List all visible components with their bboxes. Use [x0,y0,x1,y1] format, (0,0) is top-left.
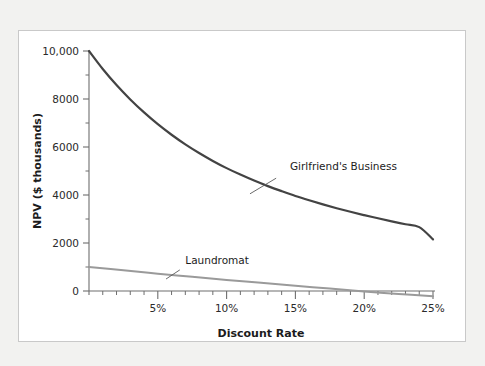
x-axis-tick-label: 20% [353,302,376,314]
y-axis-tick-label: 8000 [52,93,79,105]
y-axis-tick-label: 10,000 [42,45,79,57]
y-axis-title: NPV ($ thousands) [31,113,44,229]
x-axis-tick-label: 10% [215,302,238,314]
y-axis-tick-label: 4000 [52,189,79,201]
x-axis-title: Discount Rate [218,327,305,340]
series-curve-girlfriend-s-business [89,51,433,239]
y-axis-tick-label: 0 [72,285,79,297]
figure-panel: 0200040006000800010,0005%10%15%20%25%Gir… [18,30,466,342]
y-axis-tick-label: 6000 [52,141,79,153]
series-label-girlfriend-s-business: Girlfriend's Business [290,160,397,172]
x-axis-tick-label: 5% [149,302,166,314]
x-axis-tick-label: 25% [421,302,444,314]
x-axis-tick-label: 15% [284,302,307,314]
series-curve-laundromat [89,267,433,296]
y-axis-tick-label: 2000 [52,237,79,249]
series-label-laundromat: Laundromat [185,254,249,266]
npv-sensitivity-chart: 0200040006000800010,0005%10%15%20%25%Gir… [19,31,467,343]
